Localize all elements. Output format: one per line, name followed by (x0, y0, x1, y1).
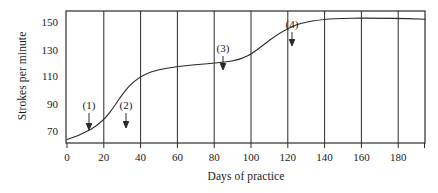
annotation-label-1: (1) (74, 100, 104, 111)
annotation-label-3: (3) (208, 43, 238, 54)
x-axis-ticks (67, 143, 425, 148)
x-axis-title: Days of practice (66, 170, 426, 182)
x-tick-label-100: 100 (234, 152, 268, 163)
x-tick-label-20: 20 (87, 152, 121, 163)
annotation-label-2: (2) (111, 100, 141, 111)
plot-frame (66, 11, 425, 143)
x-tick-label-60: 60 (160, 152, 194, 163)
y-tick-label-130: 130 (24, 45, 58, 56)
y-tick-label-150: 150 (24, 17, 58, 28)
x-tick-label-180: 180 (381, 152, 415, 163)
x-tick-label-140: 140 (308, 152, 342, 163)
x-tick-label-0: 0 (50, 152, 84, 163)
y-tick-label-90: 90 (24, 99, 58, 110)
annotation-arrows (86, 32, 294, 130)
y-tick-label-110: 110 (24, 71, 58, 82)
x-tick-label-40: 40 (124, 152, 158, 163)
x-tick-label-80: 80 (197, 152, 231, 163)
y-tick-label-70: 70 (24, 126, 58, 137)
chart-figure: Strokes per minute Days of practice 150 … (0, 0, 438, 193)
chart-plot-area (0, 0, 438, 193)
annotation-label-4: (4) (277, 19, 307, 30)
x-tick-label-120: 120 (271, 152, 305, 163)
x-tick-label-160: 160 (344, 152, 378, 163)
learning-curve-line (67, 18, 425, 139)
vertical-gridlines (104, 11, 398, 143)
